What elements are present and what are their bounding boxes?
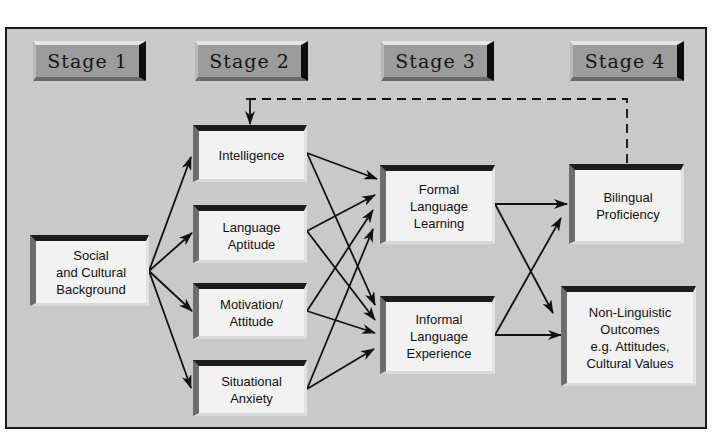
node-motivation-attitude: Motivation/ Attitude bbox=[193, 283, 307, 339]
node-non-linguistic-outcomes: Non-Linguistic Outcomes e.g. Attitudes, … bbox=[561, 286, 696, 386]
node-formal-language-learning: Formal Language Learning bbox=[380, 165, 495, 244]
node-language-aptitude: Language Aptitude bbox=[193, 205, 307, 263]
node-bilingual-proficiency: Bilingual Proficiency bbox=[569, 164, 684, 244]
stage-3-label: Stage 3 bbox=[381, 41, 494, 81]
node-intelligence: Intelligence bbox=[193, 125, 307, 182]
node-situational-anxiety: Situational Anxiety bbox=[193, 360, 307, 416]
node-informal-language-experience: Informal Language Experience bbox=[380, 296, 495, 374]
stage-4-label: Stage 4 bbox=[570, 41, 684, 81]
node-social-cultural-background: Social and Cultural Background bbox=[30, 235, 149, 306]
stage-2-label: Stage 2 bbox=[195, 41, 308, 81]
stage-1-label: Stage 1 bbox=[33, 41, 146, 81]
